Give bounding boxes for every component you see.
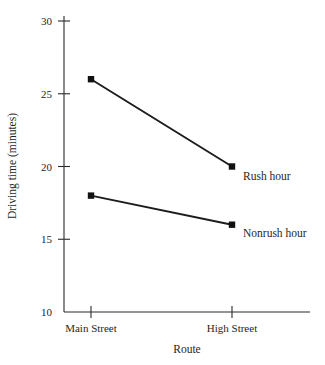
y-tick-label-10: 10 — [41, 306, 53, 318]
series-label-rush-hour: Rush hour — [243, 170, 291, 182]
line-chart: 30 25 20 15 10 Main Street High Street R… — [0, 0, 325, 365]
chart-canvas: 30 25 20 15 10 Main Street High Street R… — [0, 0, 325, 365]
x-tick-label-high-street: High Street — [207, 322, 257, 334]
data-point-rush-hour-main-street — [88, 76, 94, 82]
data-point-nonrush-hour-main-street — [88, 192, 94, 198]
x-tick-label-main-street: Main Street — [65, 322, 117, 334]
y-tick-label-25: 25 — [41, 88, 53, 100]
x-axis-title: Route — [173, 343, 200, 355]
y-tick-label-15: 15 — [41, 233, 53, 245]
data-point-rush-hour-high-street — [229, 163, 235, 169]
y-tick-label-20: 20 — [41, 161, 53, 173]
data-point-nonrush-hour-high-street — [229, 222, 235, 228]
series-line-rush-hour — [91, 79, 232, 166]
y-tick-label-30: 30 — [41, 15, 53, 27]
series-label-nonrush-hour: Nonrush hour — [243, 227, 307, 239]
y-axis-title: Driving time (minutes) — [6, 113, 19, 219]
series-line-nonrush-hour — [91, 196, 232, 225]
